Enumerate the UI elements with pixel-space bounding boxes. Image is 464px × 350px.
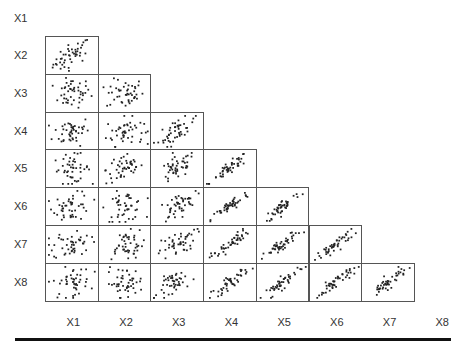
panel-x5-vs-x3 xyxy=(150,149,204,188)
panel-x6-vs-x5 xyxy=(256,187,310,226)
row-label-x1: X1 xyxy=(14,12,27,24)
scatter-points xyxy=(99,264,151,301)
scatterplot-matrix: X1X2X3X4X5X6X7X8X1X2X3X4X5X6X7X8 xyxy=(0,0,464,350)
panel-x8-vs-x4 xyxy=(203,263,257,302)
col-label-x7: X7 xyxy=(383,316,396,328)
scatter-points xyxy=(257,188,309,225)
panel-x7-vs-x4 xyxy=(203,225,257,264)
scatter-points xyxy=(151,113,203,150)
panel-x8-vs-x7 xyxy=(361,263,415,302)
row-label-x7: X7 xyxy=(14,238,27,250)
scatter-points xyxy=(257,226,309,263)
col-label-x6: X6 xyxy=(330,316,343,328)
scatter-points xyxy=(46,37,98,74)
panel-x4-vs-x1 xyxy=(45,112,99,151)
scatter-points xyxy=(204,188,256,225)
panel-x7-vs-x6 xyxy=(309,225,363,264)
row-label-x5: X5 xyxy=(14,162,27,174)
row-label-x6: X6 xyxy=(14,200,27,212)
panel-x6-vs-x3 xyxy=(150,187,204,226)
panel-x2-vs-x1 xyxy=(45,36,99,75)
scatter-points xyxy=(46,113,98,150)
row-label-x8: X8 xyxy=(14,276,27,288)
scatter-points xyxy=(204,264,256,301)
scatter-points xyxy=(204,226,256,263)
panel-x7-vs-x3 xyxy=(150,225,204,264)
panel-x8-vs-x6 xyxy=(309,263,363,302)
panel-x3-vs-x1 xyxy=(45,74,99,113)
panel-x7-vs-x1 xyxy=(45,225,99,264)
col-label-x3: X3 xyxy=(172,316,185,328)
panel-x6-vs-x4 xyxy=(203,187,257,226)
scatter-points xyxy=(46,264,98,301)
scatter-points xyxy=(362,264,414,301)
scatter-points xyxy=(151,150,203,187)
scatter-points xyxy=(204,150,256,187)
scatter-points xyxy=(46,150,98,187)
col-label-x1: X1 xyxy=(67,316,80,328)
scatter-points xyxy=(257,264,309,301)
col-label-x8: X8 xyxy=(436,316,449,328)
panel-x5-vs-x4 xyxy=(203,149,257,188)
scatter-points xyxy=(46,188,98,225)
panel-x4-vs-x3 xyxy=(150,112,204,151)
panel-x5-vs-x2 xyxy=(98,149,152,188)
col-label-x5: X5 xyxy=(277,316,290,328)
panel-x7-vs-x5 xyxy=(256,225,310,264)
panel-x6-vs-x2 xyxy=(98,187,152,226)
scatter-points xyxy=(310,226,362,263)
scatter-points xyxy=(46,226,98,263)
scatter-points xyxy=(99,75,151,112)
panel-x8-vs-x5 xyxy=(256,263,310,302)
scatter-points xyxy=(99,150,151,187)
row-label-x4: X4 xyxy=(14,125,27,137)
scatter-points xyxy=(99,226,151,263)
panel-x8-vs-x2 xyxy=(98,263,152,302)
panel-x8-vs-x3 xyxy=(150,263,204,302)
bottom-rule xyxy=(15,338,451,341)
panel-x7-vs-x2 xyxy=(98,225,152,264)
panel-x6-vs-x1 xyxy=(45,187,99,226)
panel-x5-vs-x1 xyxy=(45,149,99,188)
scatter-points xyxy=(310,264,362,301)
scatter-points xyxy=(46,75,98,112)
row-label-x3: X3 xyxy=(14,87,27,99)
scatter-points xyxy=(151,188,203,225)
col-label-x2: X2 xyxy=(119,316,132,328)
scatter-points xyxy=(99,188,151,225)
panel-x8-vs-x1 xyxy=(45,263,99,302)
scatter-points xyxy=(151,226,203,263)
panel-x4-vs-x2 xyxy=(98,112,152,151)
row-label-x2: X2 xyxy=(14,49,27,61)
scatter-points xyxy=(99,113,151,150)
col-label-x4: X4 xyxy=(225,316,238,328)
panel-x3-vs-x2 xyxy=(98,74,152,113)
scatter-points xyxy=(151,264,203,301)
